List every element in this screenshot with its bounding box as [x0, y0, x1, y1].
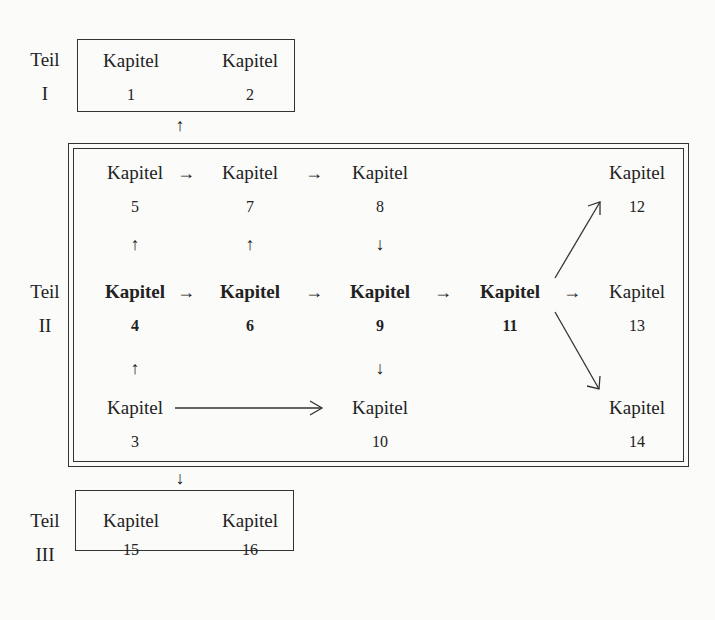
- chapter-label: Kapitel: [76, 510, 186, 532]
- part-label-text: Teil: [20, 510, 70, 532]
- arrow-line-11-to-14: [555, 312, 599, 389]
- arrow-line-11-to-12: [555, 202, 600, 278]
- part-numeral: III: [20, 544, 70, 566]
- chapter-number: 16: [195, 540, 305, 560]
- part-label-3: Teil III: [20, 510, 70, 566]
- chapter-label: Kapitel: [195, 510, 305, 532]
- arrow-down-icon: ↓: [165, 469, 195, 487]
- chapter-15[interactable]: Kapitel 15: [76, 510, 186, 560]
- chapter-16[interactable]: Kapitel 16: [195, 510, 305, 560]
- chapter-number: 15: [76, 540, 186, 560]
